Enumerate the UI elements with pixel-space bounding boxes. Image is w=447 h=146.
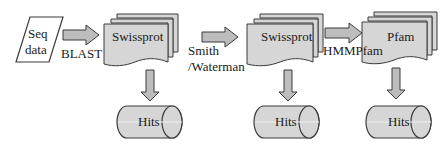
hmmpfam-label: HMMPfam	[323, 44, 383, 57]
hmmpfam-arrow-icon	[325, 23, 362, 43]
hits-2-label: Hits	[275, 115, 297, 128]
pfam-label: Pfam	[387, 30, 414, 43]
blast-arrow-icon	[63, 25, 99, 45]
swissprot-2-label: Swissprot	[261, 30, 312, 43]
down-arrow-3-icon	[387, 68, 405, 99]
seq-data-label-line1: Seq	[28, 27, 48, 40]
hits-3-label: Hits	[388, 115, 410, 128]
seq-data-label-line2: data	[25, 43, 47, 56]
smith-label: Smith	[188, 44, 219, 57]
down-arrow-1-icon	[141, 70, 159, 101]
down-arrow-2-icon	[279, 70, 297, 101]
swissprot-1-label: Swissprot	[112, 30, 163, 43]
waterman-label: /Waterman	[188, 60, 245, 73]
hits-1-label: Hits	[138, 115, 160, 128]
blast-label: BLAST	[61, 47, 102, 60]
